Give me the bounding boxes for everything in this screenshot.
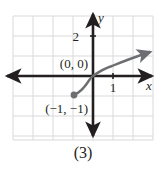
x-axis-label: x (145, 78, 152, 93)
figure-caption: (3) (0, 144, 166, 162)
endpoint-dot (71, 92, 78, 99)
grid-lines (13, 16, 153, 140)
x-tick-label-1: 1 (110, 80, 117, 95)
figure-container: y x 2 1 (0, 0) (−1, −1) (3) (0, 0, 166, 175)
axes (7, 14, 152, 136)
y-tick-label-2: 2 (73, 29, 80, 44)
origin-point-label: (0, 0) (60, 56, 88, 71)
coordinate-plane: y x 2 1 (0, 0) (−1, −1) (0, 0, 166, 150)
endpoint-point-label: (−1, −1) (45, 101, 88, 116)
y-axis-label: y (96, 10, 104, 25)
